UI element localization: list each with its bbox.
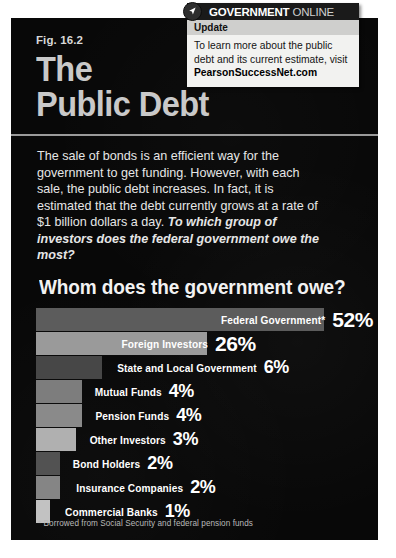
chart-bar-row: Federal Government* 52% — [36, 308, 366, 331]
bar-bond-holders — [36, 452, 60, 475]
chart-bar-row: Bond Holders 2% — [36, 452, 366, 475]
bar-label-other-investors: Other Investors — [90, 434, 166, 446]
bar-label-federal-government: Federal Government* — [221, 314, 325, 326]
callout-brand-title: GOVERNMENT ONLINE — [209, 6, 334, 18]
bar-value-insurance-companies: 2% — [190, 477, 215, 498]
bar-label-commercial-banks: Commercial Banks — [65, 506, 158, 518]
bar-label-insurance-companies: Insurance Companies — [76, 482, 183, 494]
chart-bar-row: State and Local Government 6% — [36, 356, 366, 379]
debt-poster-panel: Fig. 16.2 The Public Debt The sale of bo… — [11, 18, 378, 540]
bar-label-mutual-funds: Mutual Funds — [95, 386, 162, 398]
chart-bar-row: Other Investors 3% — [36, 428, 366, 451]
bar-value-bond-holders: 2% — [147, 453, 172, 474]
bar-value-pension-funds: 4% — [176, 405, 201, 426]
bar-label-state-and-local-government: State and Local Government — [117, 362, 257, 374]
bar-value-foreign-investors: 26% — [215, 332, 256, 356]
bar-insurance-companies — [36, 476, 60, 499]
callout-brand-bold: GOVERNMENT — [209, 6, 289, 18]
callout-url[interactable]: PearsonSuccessNet.com — [194, 67, 317, 78]
bar-state-and-local-government — [36, 356, 102, 379]
callout-text: To learn more about the public debt and … — [187, 35, 359, 80]
bar-value-state-and-local-government: 6% — [264, 357, 289, 378]
callout-update-label: Update — [187, 20, 359, 35]
chart-bar-row: Foreign Investors 26% — [36, 332, 366, 355]
chart-bar-row: Insurance Companies 2% — [36, 476, 366, 499]
bar-value-other-investors: 3% — [173, 429, 198, 450]
title-divider — [11, 134, 378, 136]
callout-brand-light: ONLINE — [292, 6, 334, 18]
bar-label-bond-holders: Bond Holders — [73, 458, 140, 470]
poster-title-line-1: The — [36, 51, 209, 86]
bar-other-investors — [36, 428, 76, 451]
government-online-callout: GOVERNMENT ONLINE Update To learn more a… — [187, 3, 359, 87]
chart-title: Whom does the government owe? — [39, 276, 346, 299]
bar-value-federal-government: 52% — [332, 308, 373, 332]
bar-pension-funds — [36, 404, 82, 427]
callout-brand-bar: GOVERNMENT ONLINE — [187, 3, 359, 20]
bar-label-pension-funds: Pension Funds — [95, 410, 169, 422]
poster-title-line-2: Public Debt — [36, 86, 209, 121]
chart-footnote: * Borrowed from Social Security and fede… — [38, 519, 253, 528]
chart-bar-row: Mutual Funds 4% — [36, 380, 366, 403]
chart-bar-row: Pension Funds 4% — [36, 404, 366, 427]
bar-mutual-funds — [36, 380, 82, 403]
poster-page: Fig. 16.2 The Public Debt The sale of bo… — [0, 0, 396, 558]
bar-value-mutual-funds: 4% — [169, 381, 194, 402]
cursor-arrow-badge-icon — [183, 2, 202, 21]
callout-text-body: To learn more about the public debt and … — [194, 40, 347, 65]
body-paragraph: The sale of bonds is an efficient way fo… — [37, 148, 327, 264]
bar-label-foreign-investors: Foreign Investors — [122, 338, 208, 350]
debt-ownership-bar-chart: Federal Government* 52% Foreign Investor… — [36, 308, 366, 524]
callout-body: Update To learn more about the public de… — [187, 20, 359, 87]
